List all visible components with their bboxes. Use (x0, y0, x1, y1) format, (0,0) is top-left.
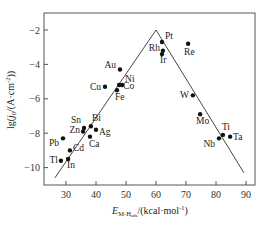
data-point-nb: Nb (203, 136, 221, 149)
point-label: Ir (160, 55, 167, 65)
x-tick-label: 50 (121, 189, 131, 200)
point-label: Cd (73, 143, 84, 153)
point-marker (103, 85, 107, 89)
x-tick: 60 (151, 181, 161, 200)
point-label: Pb (49, 138, 59, 148)
point-label: Zn (70, 125, 81, 135)
data-point-cu: Cu (90, 82, 107, 92)
data-point-ta: Ta (228, 132, 243, 142)
x-tick: 80 (211, 181, 221, 200)
right-branch-line (156, 30, 244, 173)
point-label: Pt (165, 31, 173, 41)
data-point-w: W (180, 90, 195, 100)
point-marker (81, 129, 85, 133)
data-point-in: In (66, 157, 75, 170)
point-marker (118, 67, 122, 71)
point-label: Au (104, 60, 116, 70)
point-label: Re (184, 47, 195, 57)
x-tick-label: 90 (241, 189, 251, 200)
y-tick-label: −6 (29, 93, 40, 104)
x-tick: 30 (61, 181, 71, 200)
data-point-tl: Tl (49, 155, 63, 165)
data-points: PtRhIrReAuNiCoFeCuWMoTiTaNbSnZnBiAgCaPbC… (49, 31, 243, 170)
point-marker (59, 159, 63, 163)
left-branch-line (55, 30, 156, 178)
point-marker (160, 40, 164, 44)
data-point-pb: Pb (49, 136, 65, 148)
x-tick-label: 30 (61, 189, 71, 200)
point-marker (228, 134, 232, 138)
point-label: Bi (92, 113, 101, 123)
x-axis-ticks: 30405060708090 (61, 181, 251, 200)
y-axis-label: lg(j0/(A·cm-2)) (4, 71, 17, 129)
y-tick-label: −4 (29, 59, 40, 70)
y-tick-label: −8 (29, 128, 40, 139)
x-tick: 50 (121, 181, 131, 200)
data-point-ag: Ag (94, 127, 111, 137)
point-marker (191, 93, 195, 97)
x-tick-label: 60 (151, 189, 161, 200)
x-tick: 40 (91, 181, 101, 200)
point-marker (94, 128, 98, 132)
x-tick-label: 80 (211, 189, 221, 200)
point-label: Mo (196, 116, 209, 126)
y-tick: −4 (29, 59, 48, 70)
point-label: Ca (89, 139, 100, 149)
data-point-co: Co (117, 81, 135, 91)
y-tick: −2 (29, 25, 48, 36)
x-tick-label: 40 (91, 189, 101, 200)
y-tick-label: −10 (24, 162, 40, 173)
point-marker (89, 124, 93, 128)
data-point-pt: Pt (160, 31, 173, 44)
data-point-rh: Rh (149, 43, 165, 53)
y-tick: −8 (29, 128, 48, 139)
data-point-au: Au (104, 60, 122, 72)
point-marker (221, 133, 225, 137)
point-marker (217, 136, 221, 140)
point-label: Nb (203, 139, 215, 149)
point-label: Tl (49, 155, 58, 165)
point-label: Ta (233, 132, 243, 142)
point-marker (117, 83, 121, 87)
data-point-re: Re (184, 42, 195, 57)
point-marker (61, 136, 65, 140)
data-point-cd: Cd (68, 143, 85, 153)
y-tick: −6 (29, 93, 48, 104)
x-tick: 90 (241, 181, 251, 200)
x-tick: 70 (181, 181, 191, 200)
point-marker (68, 148, 72, 152)
point-label: W (180, 90, 189, 100)
x-axis-label: EM-Hads/(kcal·mol-1) (111, 204, 188, 218)
data-point-ir: Ir (160, 52, 167, 65)
point-label: Co (123, 81, 134, 91)
point-label: Sn (71, 115, 81, 125)
point-marker (186, 42, 190, 46)
point-label: Cu (90, 82, 101, 92)
point-label: Rh (149, 43, 160, 53)
point-label: Ti (222, 122, 230, 132)
y-tick-label: −2 (29, 25, 40, 36)
point-label: Fe (115, 92, 125, 102)
x-tick-label: 70 (181, 189, 191, 200)
point-label: In (67, 160, 75, 170)
point-label: Ag (99, 127, 111, 137)
volcano-plot: 30405060708090 −2−4−6−8−10 PtRhIrReAuNiC… (0, 0, 265, 226)
